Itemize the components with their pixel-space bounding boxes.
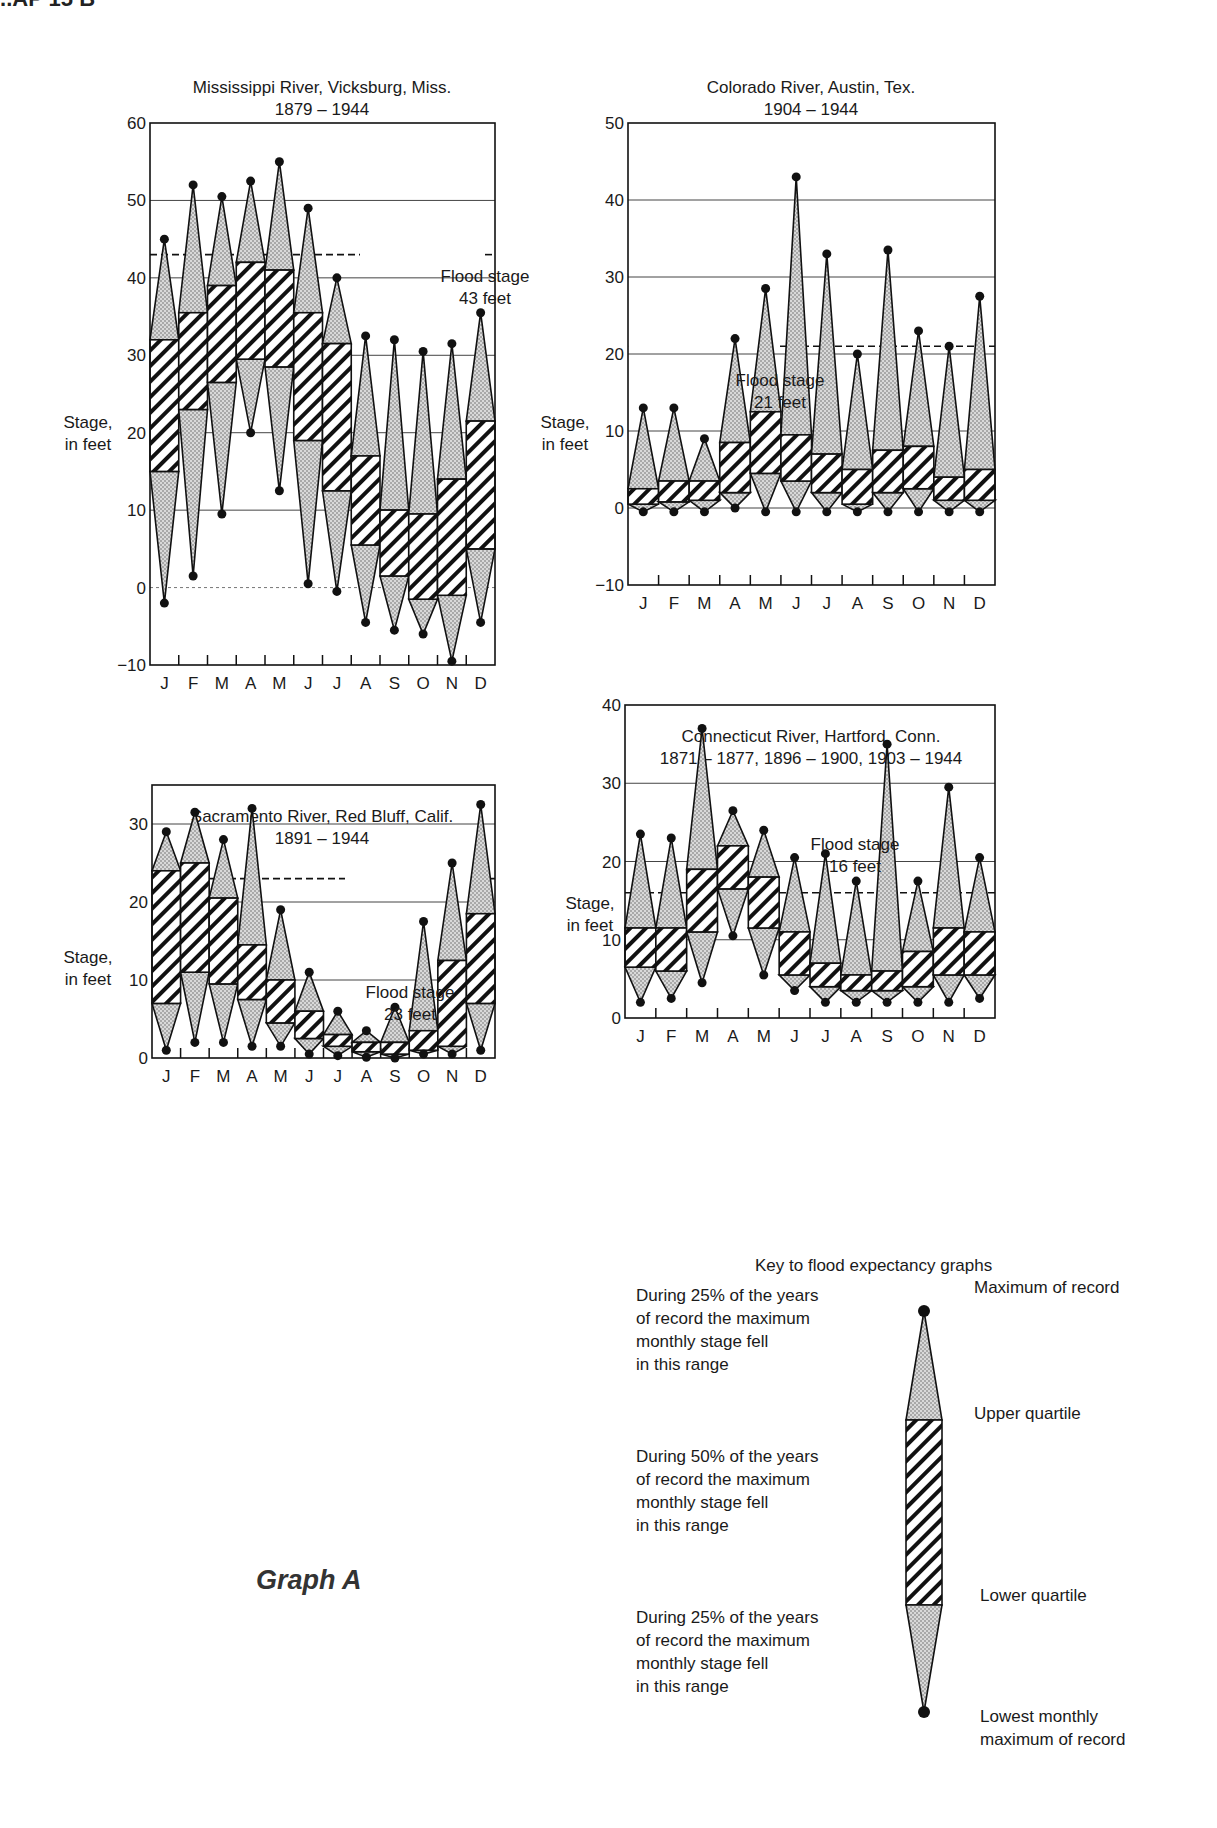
svg-text:Flood stage: Flood stage — [811, 835, 900, 854]
chart-title: Mississippi River, Vicksburg, Miss. — [193, 78, 452, 97]
max-record-dot — [447, 339, 456, 348]
max-record-dot — [190, 808, 199, 817]
month-range-glyph — [352, 1026, 381, 1062]
max-record-dot — [275, 157, 284, 166]
y-tick-label: 0 — [139, 1049, 148, 1068]
max-record-dot — [636, 830, 645, 839]
month-range-glyph — [903, 326, 934, 516]
x-tick-label: M — [759, 594, 773, 613]
x-tick-label: S — [881, 1027, 892, 1046]
x-tick-label: J — [636, 1027, 645, 1046]
max-record-dot — [822, 249, 831, 258]
month-range-glyph — [720, 334, 751, 512]
max-record-dot — [852, 877, 861, 886]
max-record-dot — [913, 877, 922, 886]
max-record-dot — [669, 403, 678, 412]
x-tick-label: A — [727, 1027, 739, 1046]
min-record-dot — [361, 618, 370, 627]
min-record-dot — [246, 428, 255, 437]
key-min-dot — [918, 1706, 930, 1718]
min-record-dot — [333, 1051, 342, 1060]
key-lowest-label: Lowest monthly maximum of record — [980, 1705, 1125, 1751]
max-record-dot — [914, 326, 923, 335]
min-record-dot — [731, 504, 740, 513]
max-record-dot — [390, 335, 399, 344]
min-record-dot — [219, 1038, 228, 1047]
max-record-dot — [728, 806, 737, 815]
month-range-glyph — [656, 834, 687, 1003]
max-record-dot — [189, 180, 198, 189]
key-legend-glyph — [906, 1305, 942, 1718]
chart-title: Connecticut River, Hartford, Conn. — [682, 727, 941, 746]
y-tick-label: 10 — [605, 422, 624, 441]
min-record-dot — [913, 998, 922, 1007]
max-record-dot — [853, 350, 862, 359]
month-range-glyph — [181, 808, 210, 1047]
chart-title: Colorado River, Austin, Tex. — [707, 78, 916, 97]
max-record-dot — [700, 434, 709, 443]
month-range-glyph — [628, 403, 659, 516]
y-axis-label: in feet — [567, 916, 614, 935]
key-max-dot — [918, 1305, 930, 1317]
min-record-dot — [914, 507, 923, 516]
max-record-dot — [476, 308, 485, 317]
y-tick-label: 20 — [129, 893, 148, 912]
x-tick-label: M — [757, 1027, 771, 1046]
y-tick-label: 0 — [137, 579, 146, 598]
y-axis-label: in feet — [542, 435, 589, 454]
key-maximum-label: Maximum of record — [974, 1276, 1119, 1299]
max-record-dot — [790, 853, 799, 862]
month-range-glyph — [964, 853, 995, 1003]
y-tick-label: 20 — [605, 345, 624, 364]
key-lower-25-text: During 25% of the years of record the ma… — [636, 1606, 818, 1698]
max-record-dot — [448, 859, 457, 868]
x-tick-label: D — [973, 1027, 985, 1046]
min-record-dot — [476, 618, 485, 627]
chart-subtitle: 1879 – 1944 — [275, 100, 370, 119]
chart-title: Sacramento River, Red Bluff, Calif. — [191, 807, 453, 826]
month-range-glyph — [625, 830, 656, 1007]
month-range-glyph — [438, 339, 467, 665]
month-range-glyph — [841, 877, 872, 1007]
y-tick-label: 30 — [602, 774, 621, 793]
x-tick-label: A — [360, 674, 372, 693]
min-record-dot — [759, 970, 768, 979]
max-record-dot — [419, 347, 428, 356]
max-record-dot — [419, 917, 428, 926]
month-range-glyph — [351, 331, 380, 626]
x-tick-label: J — [162, 1067, 171, 1086]
max-record-dot — [160, 235, 169, 244]
min-record-dot — [700, 507, 709, 516]
month-range-glyph — [179, 180, 208, 580]
max-record-dot — [219, 835, 228, 844]
min-record-dot — [275, 486, 284, 495]
min-record-dot — [332, 587, 341, 596]
x-tick-label: J — [792, 594, 801, 613]
max-record-dot — [304, 204, 313, 213]
max-record-dot — [975, 853, 984, 862]
chart-subtitle: 1904 – 1944 — [764, 100, 859, 119]
max-record-dot — [217, 192, 226, 201]
min-record-dot — [217, 510, 226, 519]
x-tick-label: S — [389, 674, 400, 693]
y-axis-label: Stage, — [540, 413, 589, 432]
x-tick-label: F — [669, 594, 679, 613]
x-tick-label: A — [852, 594, 864, 613]
flood-stage-label: Flood stage21 feet — [736, 371, 825, 412]
y-axis-label: Stage, — [63, 948, 112, 967]
x-tick-label: M — [272, 674, 286, 693]
y-tick-label: 40 — [602, 696, 621, 715]
max-record-dot — [361, 331, 370, 340]
y-tick-label: −10 — [117, 656, 146, 675]
chart-connecticut: Connecticut River, Hartford, Conn.1871 –… — [565, 696, 995, 1046]
max-record-dot — [476, 800, 485, 809]
min-record-dot — [304, 579, 313, 588]
max-record-dot — [639, 403, 648, 412]
x-tick-label: F — [666, 1027, 676, 1046]
x-tick-label: N — [943, 594, 955, 613]
key-upper-25-text: During 25% of the years of record the ma… — [636, 1284, 818, 1376]
svg-text:16 feet: 16 feet — [829, 857, 881, 876]
chart-colorado: Colorado River, Austin, Tex.1904 – 1944−… — [540, 78, 995, 613]
min-record-dot — [698, 978, 707, 987]
x-tick-label: F — [190, 1067, 200, 1086]
